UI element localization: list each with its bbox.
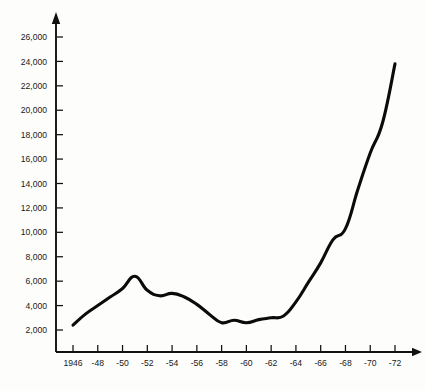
x-axis-tick-label: -48 <box>92 358 105 368</box>
x-axis-tick-label: -54 <box>166 358 179 368</box>
x-axis-tick-label: 1946 <box>63 358 82 368</box>
y-axis-tick-label: 20,000 <box>21 105 48 115</box>
line-chart: 2,0004,0006,0008,00010,00012,00014,00016… <box>0 0 425 391</box>
y-axis-tick-label: 8,000 <box>25 252 47 262</box>
y-axis-tick-label: 16,000 <box>21 154 48 164</box>
x-axis-tick-label: -64 <box>290 358 303 368</box>
y-axis-tick-label: 18,000 <box>21 130 48 140</box>
x-axis-tick-label: -50 <box>116 358 129 368</box>
y-axis-arrow-icon <box>52 12 60 24</box>
x-axis-tick-label: -62 <box>265 358 278 368</box>
y-axis-tick-label: 4,000 <box>25 301 47 311</box>
x-axis-tick-label: -56 <box>191 358 204 368</box>
chart-canvas: 2,0004,0006,0008,00010,00012,00014,00016… <box>0 0 425 391</box>
y-axis-tick-label: 6,000 <box>25 276 47 286</box>
y-axis-tick-marks <box>57 37 63 330</box>
x-axis-tick-label: -52 <box>141 358 154 368</box>
y-axis-tick-label: 10,000 <box>21 227 48 237</box>
x-axis-tick-label: -66 <box>314 358 327 368</box>
x-axis-tick-label: -68 <box>339 358 352 368</box>
x-axis-tick-label: -58 <box>215 358 228 368</box>
x-axis-tick-marks <box>73 345 395 351</box>
x-axis-tick-label: -72 <box>389 358 402 368</box>
x-axis-tick-label: -70 <box>364 358 377 368</box>
y-axis-tick-label: 12,000 <box>21 203 48 213</box>
y-axis-tick-label: 14,000 <box>21 179 48 189</box>
y-axis-tick-label: 24,000 <box>21 57 48 67</box>
y-axis-tick-label: 26,000 <box>21 32 48 42</box>
x-axis-tick-labels: 1946-48-50-52-54-56-58-60-62-64-66-68-70… <box>63 358 401 368</box>
y-axis-tick-label: 22,000 <box>21 81 48 91</box>
y-axis-tick-label: 2,000 <box>25 325 47 335</box>
x-axis-arrow-icon <box>412 348 422 356</box>
y-axis-tick-labels: 2,0004,0006,0008,00010,00012,00014,00016… <box>21 32 48 335</box>
data-series-line <box>73 64 395 325</box>
x-axis-tick-label: -60 <box>240 358 253 368</box>
